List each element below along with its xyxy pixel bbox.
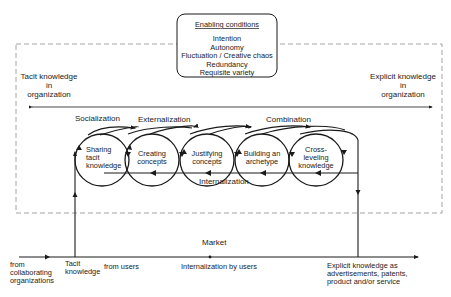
enabling-conditions-title: Enabling conditions xyxy=(195,20,259,29)
phase-text-creating: Creating concepts xyxy=(137,149,167,166)
svg-text:concepts: concepts xyxy=(192,157,222,166)
enabling-conditions-box: Enabling conditions Intention Autonomy F… xyxy=(177,14,277,77)
explicit-organization-label: Explicit knowledge in organization xyxy=(370,72,436,99)
svg-text:knowledge: knowledge xyxy=(65,267,100,276)
svg-text:in: in xyxy=(46,81,52,90)
tacit-organization-label: Tacit knowledge in organization xyxy=(21,72,78,99)
svg-text:organization: organization xyxy=(27,90,71,99)
phase-text-sharing: Sharing tacit knowledge xyxy=(86,145,121,170)
internalization-by-users-label: Internalization by users xyxy=(181,262,257,271)
tacit-knowledge-label: Tacit knowledge xyxy=(65,259,100,276)
socialization-label: Socialization xyxy=(75,114,120,123)
svg-text:knowledge: knowledge xyxy=(298,161,333,170)
phase-text-building: Building an archetype xyxy=(244,149,281,166)
output-arrowhead xyxy=(356,190,361,195)
input-arrowhead xyxy=(73,192,78,197)
svg-text:knowledge: knowledge xyxy=(86,161,121,170)
svg-text:concepts: concepts xyxy=(137,157,167,166)
condition-item: Requisite variety xyxy=(200,68,255,77)
explicit-output-label: Explicit knowledge as advertisements, pa… xyxy=(327,261,408,286)
from-collaborating-label: from collaborating organizations xyxy=(10,260,54,285)
combination-label: Combination xyxy=(266,115,311,124)
svg-text:product and/or service: product and/or service xyxy=(327,277,400,286)
spiral-arcs xyxy=(88,126,358,140)
market-dot xyxy=(209,256,212,259)
svg-text:organizations: organizations xyxy=(10,276,54,285)
phase-text-cross-leveling: Cross- leveling knowledge xyxy=(298,145,333,170)
svg-text:archetype: archetype xyxy=(246,157,278,166)
ellipse-sharing xyxy=(75,134,129,186)
phase-text-justifying: Justifying concepts xyxy=(192,149,223,166)
knowledge-creation-diagram: Enabling conditions Intention Autonomy F… xyxy=(0,0,451,297)
externalization-label: Externalization xyxy=(138,115,190,124)
svg-text:in: in xyxy=(400,81,406,90)
svg-text:organization: organization xyxy=(381,90,425,99)
market-arrowhead xyxy=(45,255,50,260)
svg-text:Tacit knowledge: Tacit knowledge xyxy=(21,72,78,81)
from-users-label: from users xyxy=(104,262,139,271)
market-label: Market xyxy=(202,238,227,247)
internalization-label: Internalization xyxy=(199,177,249,186)
svg-text:Explicit knowledge: Explicit knowledge xyxy=(370,72,436,81)
